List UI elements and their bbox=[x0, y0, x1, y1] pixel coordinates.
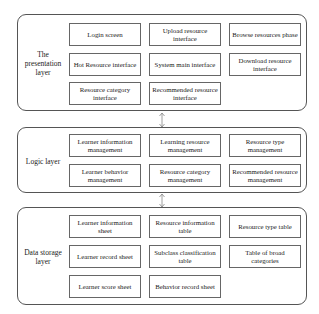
box-table-of-broad-categories: Table of broad categories bbox=[229, 245, 301, 268]
box-resource-information-table: Resource information table bbox=[149, 215, 221, 238]
box-behavior-record-sheet: Behavior record sheet bbox=[149, 275, 221, 298]
box-learning-resource-management: Learning resource management bbox=[149, 134, 221, 157]
double-arrow-icon bbox=[158, 112, 166, 128]
box-hot-resource-interface: Hot Resource interface bbox=[69, 53, 141, 76]
box-subclass-classification-table: Subclass classification table bbox=[149, 245, 221, 268]
box-resource-category-interface: Resource category interface bbox=[69, 82, 141, 105]
presentation-layer: The presentation layer Login screen Uplo… bbox=[17, 14, 307, 111]
logic-layer: Logic layer Learner information manageme… bbox=[17, 127, 307, 193]
data-storage-layer-label: Data storage layer bbox=[18, 248, 68, 266]
box-learner-record-sheet: Learner record sheet bbox=[69, 245, 141, 268]
box-learner-information-sheet: Learner information sheet bbox=[69, 215, 141, 238]
box-recommended-resource-management: Recommended resource management bbox=[229, 164, 301, 187]
box-resource-category-management: Resource category management bbox=[149, 164, 221, 187]
box-learner-behavior-management: Learner behavior management bbox=[69, 164, 141, 187]
box-resource-type-table: Resource type table bbox=[229, 215, 301, 238]
box-login-screen: Login screen bbox=[69, 23, 141, 46]
box-upload-resource-interface: Upload resource interface bbox=[149, 23, 221, 46]
logic-layer-label: Logic layer bbox=[18, 157, 68, 166]
box-system-main-interface: System main interface bbox=[149, 53, 221, 76]
data-storage-layer: Data storage layer Learner information s… bbox=[17, 207, 307, 305]
box-browse-resources-phase: Browse resources phase bbox=[229, 23, 301, 46]
box-resource-type-management: Resource type management bbox=[229, 134, 301, 157]
box-learner-information-management: Learner information management bbox=[69, 134, 141, 157]
box-learner-score-sheet: Learner score sheet bbox=[69, 275, 141, 298]
box-download-resource-interface: Download resource interface bbox=[229, 53, 301, 76]
box-recommended-resource-interface: Recommended resource interface bbox=[149, 82, 221, 105]
double-arrow-icon bbox=[158, 193, 166, 208]
presentation-layer-label: The presentation layer bbox=[18, 50, 68, 77]
